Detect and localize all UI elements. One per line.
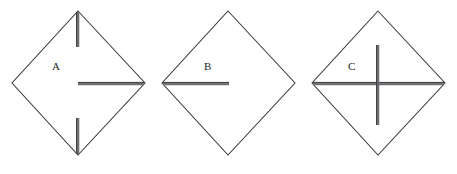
panel-c: C xyxy=(312,11,445,155)
figure-container: A B C xyxy=(0,0,457,174)
panel-label-b: B xyxy=(204,60,211,72)
panel-a: A xyxy=(12,11,145,155)
diamond-fold-figure: A B C xyxy=(0,0,457,174)
panel-b: B xyxy=(162,11,295,155)
panel-label-a: A xyxy=(52,60,60,72)
panel-label-c: C xyxy=(348,60,355,72)
